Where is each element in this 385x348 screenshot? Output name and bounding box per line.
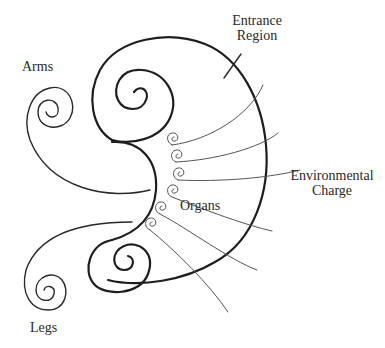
organ-2: [172, 133, 279, 162]
entrance-label-line1: Entrance: [222, 13, 292, 28]
top-spiral: [112, 70, 173, 142]
arms-label: Arms: [22, 59, 53, 74]
organs-label: Organs: [180, 198, 220, 213]
entrance-region-label: Entrance Region: [222, 13, 292, 43]
body-outline: [92, 37, 266, 283]
environmental-charge-label: Environmental Charge: [282, 168, 382, 198]
legs-label: Legs: [30, 320, 57, 335]
bottom-spiral: [88, 240, 150, 292]
environmental-label-line2: Charge: [282, 183, 382, 198]
arms-spiral: [27, 87, 150, 193]
entrance-label-line2: Region: [222, 28, 292, 43]
diagram-canvas: Arms Entrance Region Environmental Charg…: [0, 0, 385, 348]
organ-1: [168, 85, 264, 145]
inner-edge: [112, 142, 156, 240]
organ-6: [146, 218, 229, 312]
environmental-label-line1: Environmental: [282, 168, 382, 183]
